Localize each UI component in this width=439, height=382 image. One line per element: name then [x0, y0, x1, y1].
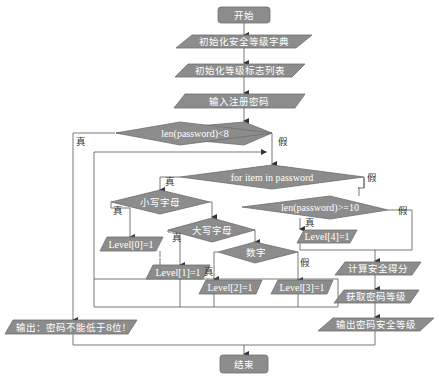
flowchart: 开始 初始化安全等级字典 初始化等级标志列表 输入注册密码 len(passwo… — [0, 0, 439, 382]
label-upper-true: 真 — [172, 232, 182, 243]
node-check-len8: len(password)<8 — [116, 122, 272, 145]
svg-text:结束: 结束 — [234, 359, 254, 370]
svg-text:len(password)>=10: len(password)>=10 — [281, 202, 359, 214]
svg-text:Level[3]=1: Level[3]=1 — [279, 282, 324, 293]
svg-text:初始化等级标志列表: 初始化等级标志列表 — [195, 65, 285, 76]
node-level4: Level[4]=1 — [297, 230, 357, 243]
label-digit-false: 假 — [300, 257, 310, 268]
label-len10-false: 假 — [398, 205, 408, 216]
label-len8-false: 假 — [278, 136, 288, 147]
node-output-short: 输出：密码不能低于8位! — [5, 320, 137, 334]
label-len8-true: 真 — [76, 136, 86, 147]
svg-text:大写字母: 大写字母 — [192, 225, 232, 236]
node-level0: Level[0]=1 — [100, 237, 163, 251]
label-lower-true: 真 — [113, 205, 123, 216]
node-level1: Level[1]=1 — [146, 265, 210, 279]
node-level2: Level[2]=1 — [199, 280, 262, 294]
svg-text:数字: 数字 — [246, 247, 266, 258]
node-is-digit: 数字 — [218, 242, 298, 263]
node-calc-score: 计算安全得分 — [335, 262, 421, 275]
node-is-lower: 小写字母 — [111, 190, 210, 214]
node-output-level: 输出密码安全等级 — [318, 318, 434, 331]
svg-text:输出密码安全等级: 输出密码安全等级 — [336, 319, 416, 330]
svg-text:初始化安全等级字典: 初始化安全等级字典 — [199, 36, 289, 47]
node-level3: Level[3]=1 — [271, 280, 333, 294]
svg-text:输入注册密码: 输入注册密码 — [209, 96, 269, 107]
svg-text:输出：密码不能低于8位!: 输出：密码不能低于8位! — [16, 322, 126, 333]
node-init-flags: 初始化等级标志列表 — [175, 64, 305, 77]
svg-text:Level[4]=1: Level[4]=1 — [304, 231, 349, 242]
node-check-len10: len(password)>=10 — [242, 196, 388, 219]
svg-text:len(password)<8: len(password)<8 — [161, 128, 228, 140]
label-len10-true: 真 — [305, 217, 315, 228]
label-for-true: 真 — [165, 176, 175, 187]
svg-text:计算安全得分: 计算安全得分 — [348, 263, 408, 274]
svg-text:Level[2]=1: Level[2]=1 — [207, 282, 252, 293]
node-start: 开始 — [218, 7, 270, 23]
node-init-dict: 初始化安全等级字典 — [176, 35, 312, 48]
node-for-loop: for item in password — [180, 165, 364, 189]
svg-text:Level[1]=1: Level[1]=1 — [155, 267, 200, 278]
svg-text:小写字母: 小写字母 — [140, 197, 180, 208]
svg-text:开始: 开始 — [234, 10, 254, 21]
node-end: 结束 — [220, 355, 268, 373]
svg-text:Level[0]=1: Level[0]=1 — [108, 239, 153, 250]
node-input-password: 输入注册密码 — [174, 94, 305, 108]
label-digit-true: 真 — [204, 266, 214, 277]
svg-text:获取密码等级: 获取密码等级 — [346, 291, 406, 302]
node-get-level: 获取密码等级 — [334, 290, 419, 303]
label-for-false: 假 — [367, 172, 377, 183]
svg-text:for item in password: for item in password — [231, 172, 314, 183]
